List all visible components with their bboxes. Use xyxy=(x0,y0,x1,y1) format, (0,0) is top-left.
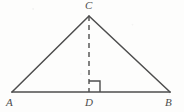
segment-CB xyxy=(89,16,170,92)
vertex-label-a: A xyxy=(6,97,13,108)
right-angle-icon xyxy=(89,81,100,92)
vertex-label-d: D xyxy=(85,97,93,108)
segment-AC xyxy=(12,16,89,92)
vertex-label-c: C xyxy=(85,0,92,11)
geometry-figure: A B C D xyxy=(0,0,184,112)
vertex-label-b: B xyxy=(165,97,172,108)
